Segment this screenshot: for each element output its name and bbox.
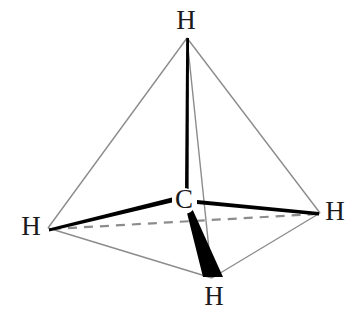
atom-label-hydrogen-top: H — [176, 5, 196, 35]
bond-c-to-h-left-icon — [49, 198, 172, 232]
bond-c-to-h-top-icon — [185, 38, 189, 192]
tetrahedron-outline — [48, 38, 320, 278]
methane-tetrahedron-diagram: H C H H H — [0, 0, 364, 320]
label-halo-group — [18, 8, 348, 312]
bond-c-to-h-right-icon — [197, 200, 319, 216]
bond-c-to-h-front-wedge-icon — [185, 205, 223, 277]
atom-label-carbon: C — [175, 184, 193, 214]
molecule-svg: H C H H H — [0, 0, 364, 320]
edge-right-to-front-icon — [212, 213, 320, 278]
atom-label-hydrogen-left: H — [21, 211, 41, 241]
atom-label-hydrogen-right: H — [325, 196, 345, 226]
edge-apex-to-right-icon — [187, 38, 320, 213]
atom-label-group: H C H H H — [21, 5, 345, 311]
edge-left-to-right-dashed-icon — [52, 214, 317, 229]
edge-left-to-front-icon — [48, 228, 212, 278]
atom-label-hydrogen-front: H — [204, 281, 224, 311]
